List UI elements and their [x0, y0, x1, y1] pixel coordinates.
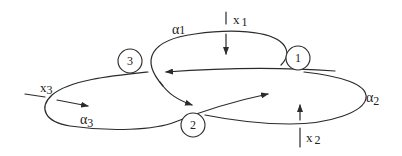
node-1: 1	[286, 46, 310, 70]
node-3: 3	[118, 49, 142, 73]
node-2: 2	[181, 113, 205, 137]
node-3-label: 3	[127, 54, 133, 68]
arc-alpha3	[45, 72, 268, 129]
label-alpha2: α2	[366, 90, 379, 108]
strand-3-to-2	[160, 82, 192, 105]
node-2-label: 2	[190, 118, 196, 132]
x3-arrow	[57, 100, 88, 106]
arc-alpha1	[151, 31, 287, 86]
arrow-upper-left	[166, 68, 335, 72]
node-1-label: 1	[295, 51, 301, 65]
label-x2: x2	[306, 130, 321, 147]
knot-diagram: 3 1 2 α1 α2 α3 x1 x2 x3	[0, 0, 402, 156]
label-x1: x1	[233, 12, 248, 29]
label-alpha1: α1	[172, 22, 185, 37]
arc-alpha2	[205, 72, 366, 124]
label-x3: x3	[40, 80, 53, 97]
